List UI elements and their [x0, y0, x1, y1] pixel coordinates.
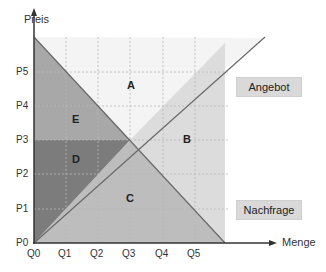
region-label-c: C: [126, 192, 134, 204]
x-tick-q4: Q4: [155, 248, 168, 259]
y-tick-p0: P0: [16, 237, 28, 248]
region-label-d: D: [72, 153, 80, 165]
x-tick-q0: Q0: [27, 248, 40, 259]
region-label-b: B: [183, 133, 191, 145]
x-axis-arrow-icon: [269, 240, 277, 246]
y-tick-p3: P3: [16, 134, 28, 145]
region-label-a: A: [127, 79, 135, 91]
x-tick-q5: Q5: [187, 248, 200, 259]
y-tick-p2: P2: [16, 168, 28, 179]
x-axis-title: Menge: [282, 236, 316, 248]
region-label-e: E: [72, 113, 79, 125]
y-tick-p1: P1: [16, 203, 28, 214]
legend-supply: Angebot: [236, 77, 302, 97]
y-axis-title: Preis: [24, 13, 49, 25]
x-tick-q3: Q3: [122, 248, 135, 259]
diagram-canvas: [0, 0, 326, 272]
x-tick-q1: Q1: [58, 248, 71, 259]
y-tick-p4: P4: [16, 100, 28, 111]
legend-demand: Nachfrage: [236, 200, 302, 220]
y-tick-p5: P5: [16, 66, 28, 77]
x-tick-q2: Q2: [90, 248, 103, 259]
